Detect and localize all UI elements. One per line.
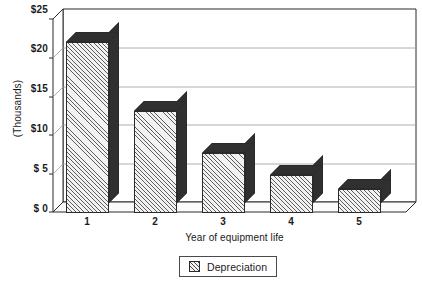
bar-year-2 [134,111,177,213]
bar-side-year-4 [313,155,323,203]
bar-year-1 [66,42,109,213]
depreciation-bar-chart: (Thousands) $25 $20 $15 $10 $ 5 $ 0 [0,0,422,283]
x-tick-label-1: 1 [57,216,117,227]
y-tick-label-20: $20 [14,43,48,54]
y-axis-tick-labels: $25 $20 $15 $10 $ 5 $ 0 [14,0,48,283]
bar-year-4 [270,175,313,213]
bar-front-year-5 [338,189,381,213]
x-tick-label-4: 4 [261,216,321,227]
bar-front-year-1 [66,42,109,213]
x-tick-label-2: 2 [125,216,185,227]
y-tick-label-5: $ 5 [14,163,48,174]
bar-front-year-4 [270,175,313,213]
x-axis-title: Year of equipment life [53,232,416,243]
bar-front-year-2 [134,111,177,213]
legend-label-depreciation: Depreciation [207,261,267,273]
bar-year-3 [202,153,245,213]
x-tick-label-3: 3 [193,216,253,227]
legend-swatch-icon [189,261,200,272]
x-tick-label-5: 5 [329,216,389,227]
x-axis-tick-labels: 1 2 3 4 5 [53,216,416,232]
y-tick-label-15: $15 [14,83,48,94]
chart-legend: Depreciation [179,256,277,277]
y-tick-label-10: $10 [14,123,48,134]
bar-side-year-1 [109,22,119,203]
bar-year-5 [338,189,381,213]
bar-front-year-3 [202,153,245,213]
bars-layer [53,9,416,213]
y-tick-label-25: $25 [14,4,48,15]
y-tick-label-0: $ 0 [14,203,48,214]
